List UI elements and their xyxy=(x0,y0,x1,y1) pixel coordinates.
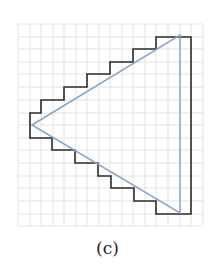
figure-diagram xyxy=(0,0,215,267)
figure-caption: (c) xyxy=(0,238,215,258)
staircase-outline xyxy=(30,37,191,214)
grid xyxy=(18,24,203,226)
